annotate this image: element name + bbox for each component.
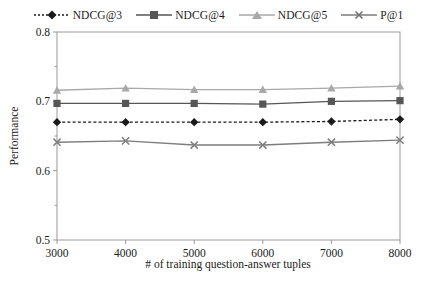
y-axis-tick-labels: 0.50.60.70.8 xyxy=(36,26,51,246)
series-p1 xyxy=(53,137,403,149)
series-ndcg3 xyxy=(53,115,404,126)
data-point xyxy=(328,98,335,105)
data-series-layer xyxy=(53,82,404,149)
data-point xyxy=(121,118,129,126)
data-point xyxy=(122,100,129,107)
x-tick-label: 3000 xyxy=(46,247,69,259)
y-axis-title: Performance xyxy=(8,107,20,166)
y-tick-label: 0.6 xyxy=(36,165,51,177)
y-tick-label: 0.7 xyxy=(36,95,51,107)
y-tick-label: 0.8 xyxy=(36,26,51,38)
data-point xyxy=(259,118,267,126)
data-point xyxy=(396,115,404,123)
y-tick-label: 0.5 xyxy=(36,234,51,246)
data-point xyxy=(396,97,403,104)
y-axis-ticks xyxy=(53,32,57,240)
data-point xyxy=(191,100,198,107)
x-tick-label: 8000 xyxy=(389,247,412,259)
x-tick-label: 7000 xyxy=(320,247,343,259)
series-ndcg4 xyxy=(53,97,403,108)
data-point xyxy=(327,117,335,125)
x-axis-title: # of training question-answer tuples xyxy=(145,258,311,271)
data-point xyxy=(53,100,60,107)
x-tick-label: 4000 xyxy=(114,247,137,259)
data-point xyxy=(190,118,198,126)
data-point xyxy=(53,118,61,126)
series-ndcg5 xyxy=(53,82,404,94)
plot-area: 0.50.60.70.8 300040005000600070008000 # … xyxy=(0,0,437,281)
data-point xyxy=(259,101,266,108)
plot-frame xyxy=(57,32,400,240)
x-axis-ticks xyxy=(57,240,400,244)
performance-vs-training-size-chart: NDCG@3 NDCG@4 NDCG@5 P@1 xyxy=(0,0,437,281)
